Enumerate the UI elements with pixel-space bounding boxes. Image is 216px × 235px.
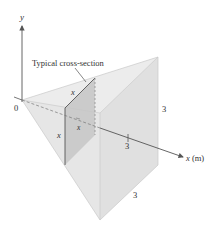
section-position-label: x	[76, 123, 81, 132]
cross-section-caption: Typical cross-section	[32, 58, 105, 68]
x-axis-label-unit: (m)	[190, 153, 205, 163]
x-tick-label: 3	[125, 141, 129, 151]
z-axis-stub	[14, 97, 22, 100]
base-label: 3	[133, 190, 137, 200]
section-side-label: x	[56, 130, 61, 140]
cross-section-leader-line	[75, 68, 86, 82]
y-axis-label: y	[19, 12, 24, 22]
diagram-canvas: y 0 Typical cross-section x x x 3 3 3 x …	[0, 0, 216, 235]
origin-label: 0	[14, 103, 18, 113]
section-top-label: x	[70, 87, 75, 97]
height-label: 3	[162, 104, 166, 114]
pyramid-cross-section-diagram: y 0 Typical cross-section x x x 3 3 3 x …	[0, 0, 216, 235]
x-axis-label: x (m)	[185, 153, 204, 163]
